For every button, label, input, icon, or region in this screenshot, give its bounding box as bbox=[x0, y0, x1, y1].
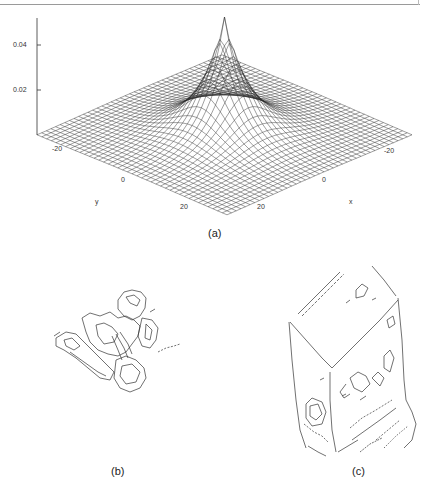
z-tick-label: 0.04 bbox=[13, 41, 27, 48]
y-tick-label: 0 bbox=[121, 176, 125, 183]
x-tick-label: 0 bbox=[322, 176, 326, 183]
x-axis-label: x bbox=[349, 198, 353, 205]
panel-b-caption: (b) bbox=[111, 466, 124, 477]
mesh-lines bbox=[37, 17, 412, 215]
x-tick-label: -20 bbox=[384, 147, 394, 154]
y-tick-label: 20 bbox=[180, 203, 188, 210]
y-axis-label: y bbox=[95, 198, 99, 205]
surface-mesh-plot bbox=[0, 0, 435, 240]
x-tick-label: 20 bbox=[257, 203, 265, 210]
z-axis bbox=[37, 18, 41, 135]
z-tick-label: 0.02 bbox=[13, 86, 27, 93]
panel-c-caption: (c) bbox=[352, 466, 365, 477]
y-tick-label: -20 bbox=[52, 145, 62, 152]
panel-a-caption: (a) bbox=[208, 228, 221, 239]
